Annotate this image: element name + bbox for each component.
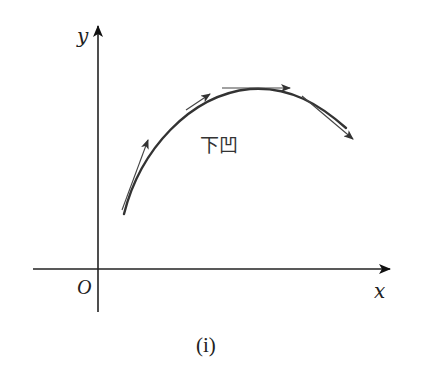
origin-label: O <box>77 276 91 298</box>
figure-caption: (i) <box>196 333 216 357</box>
y-axis-label: y <box>76 24 89 48</box>
tangent-arrow-1 <box>122 140 148 210</box>
x-axis-label: x <box>374 279 385 303</box>
concave-down-label: 下凹 <box>200 134 238 156</box>
tangent-arrow-4 <box>302 96 353 139</box>
concavity-diagram: y x O 下凹 (i) <box>0 0 423 384</box>
